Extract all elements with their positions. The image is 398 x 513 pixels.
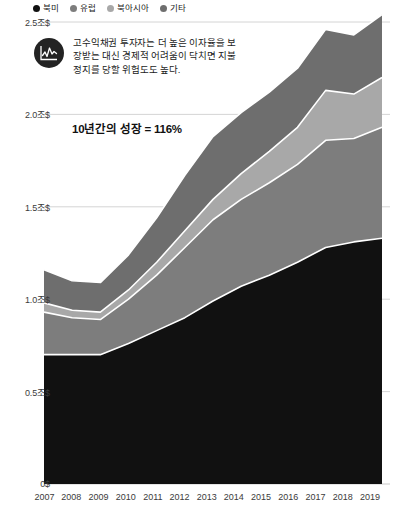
x-axis-tick-2018: 2018 — [333, 492, 353, 502]
x-axis-tick-2017: 2017 — [306, 492, 326, 502]
chart-line-icon — [34, 38, 64, 68]
annotation-line-3: 정지를 당할 위험도도 높다. — [73, 63, 236, 76]
annotation-text: 고수익채권 투자자는 더 높은 이자율을 보 장받는 대신 경제적 어려움이 닥… — [73, 36, 236, 76]
x-axis-tick-2010: 2010 — [116, 492, 136, 502]
y-axis-tick-2: 1.0조$ — [25, 293, 50, 306]
legend-dot-north-america — [33, 5, 40, 12]
x-axis-tick-2009: 2009 — [88, 492, 108, 502]
annotation-line-1: 고수익채권 투자자는 더 높은 이자율을 보 — [73, 36, 236, 49]
chart-page: 북미 유럽 북아시아 기타 0$0.5조$1.0조$1.5조$2.0조$2.5조… — [0, 0, 398, 513]
x-axis-tick-2012: 2012 — [169, 492, 189, 502]
x-axis-tick-2011: 2011 — [143, 492, 162, 502]
chart-legend: 북미 유럽 북아시아 기타 — [33, 1, 186, 15]
annotation-line-2: 장받는 대신 경제적 어려움이 닥치면 지불 — [73, 49, 236, 62]
y-axis-tick-5: 2.5조$ — [25, 16, 50, 29]
legend-item-north-america[interactable]: 북미 — [33, 4, 59, 13]
legend-dot-europe — [70, 5, 77, 12]
legend-label-north-asia: 북아시아 — [117, 4, 149, 13]
y-axis-tick-0: 0$ — [40, 479, 50, 489]
y-axis-tick-4: 2.0조$ — [25, 108, 50, 121]
y-axis-tick-3: 1.5조$ — [25, 200, 50, 213]
legend-dot-north-asia — [107, 5, 114, 12]
x-axis-tick-2007: 2007 — [34, 492, 54, 502]
y-axis-tick-1: 0.5조$ — [25, 385, 50, 398]
legend-label-other: 기타 — [170, 4, 186, 13]
annotation-callout: 고수익채권 투자자는 더 높은 이자율을 보 장받는 대신 경제적 어려움이 닥… — [34, 36, 252, 76]
legend-item-europe[interactable]: 유럽 — [70, 4, 96, 13]
x-axis-tick-2016: 2016 — [278, 492, 298, 502]
legend-label-europe: 유럽 — [80, 4, 96, 13]
x-axis-tick-2015: 2015 — [251, 492, 271, 502]
x-axis-tick-2014: 2014 — [224, 492, 244, 502]
x-axis-tick-2019: 2019 — [360, 492, 380, 502]
legend-item-other[interactable]: 기타 — [160, 4, 186, 13]
x-axis-tick-2008: 2008 — [61, 492, 81, 502]
plot-area — [0, 0, 398, 513]
legend-dot-other — [160, 5, 167, 12]
growth-callout: 10년간의 성장 = 116% — [72, 120, 182, 136]
legend-item-north-asia[interactable]: 북아시아 — [107, 4, 149, 13]
x-axis-labels: 2007200820092010201120122013201420152016… — [44, 492, 390, 502]
legend-label-north-america: 북미 — [43, 4, 59, 13]
x-axis-tick-2013: 2013 — [197, 492, 217, 502]
